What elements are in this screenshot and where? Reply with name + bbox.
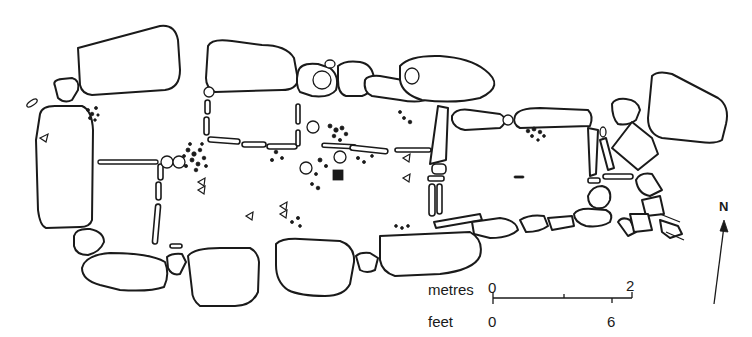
chamber-east-features: [428, 106, 636, 238]
scale-feet-tick-6: 6: [607, 314, 615, 329]
boulder-bottom-4: [276, 239, 354, 296]
top-boulders: [26, 26, 495, 109]
boulder-top-2: [206, 40, 298, 92]
boulder-top-left: [78, 26, 180, 95]
boulder-bottom-1: [82, 253, 167, 291]
scale-metres-label: metres: [428, 282, 474, 297]
bottom-boulders: [82, 232, 481, 306]
boulder-bottom-6: [380, 232, 481, 276]
scale-feet-tick-0: 0: [488, 314, 496, 329]
chamber-west-features: [152, 164, 182, 248]
north-arrow-head: [720, 220, 728, 232]
boulder-bottom-5: [356, 253, 378, 272]
east-boulders: [612, 72, 727, 240]
scale-metres-tick-2: 2: [626, 278, 634, 293]
small-stone: [325, 60, 335, 68]
scale-feet-label: feet: [428, 314, 453, 329]
north-arrow: [714, 220, 728, 304]
boulder-west-lower: [74, 229, 104, 255]
finds-cluster-east: [291, 111, 546, 230]
small-stone: [26, 98, 39, 109]
north-arrow-shaft: [714, 226, 724, 304]
boulder-bottom-3: [188, 248, 259, 306]
finds-cluster-central: [98, 143, 208, 172]
finds-cluster-middle: [270, 121, 373, 190]
boulder-bottom-2: [167, 254, 186, 275]
scale-metres-tick-0: 0: [488, 280, 496, 295]
boulder-east-small: [612, 99, 640, 125]
site-plan-drawing: [0, 0, 752, 337]
boulder-top-left-small: [54, 78, 78, 102]
north-label: N: [719, 200, 728, 213]
scale-bar: [493, 292, 632, 304]
boulder-east-large: [648, 72, 727, 142]
end-slab-west: [36, 106, 93, 228]
small-stone: [313, 71, 331, 89]
small-stone: [405, 68, 419, 84]
